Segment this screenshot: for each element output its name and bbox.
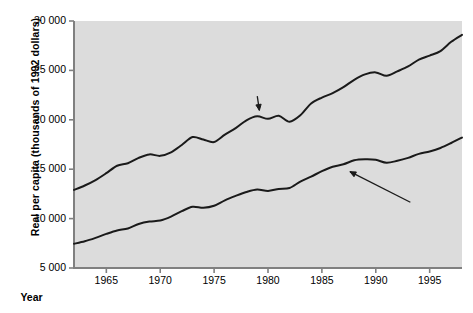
chart-figure: Real per capita (thousands of 1992 dolla… — [0, 0, 473, 313]
plot-canvas — [0, 0, 473, 313]
plot-area-background — [74, 21, 462, 268]
